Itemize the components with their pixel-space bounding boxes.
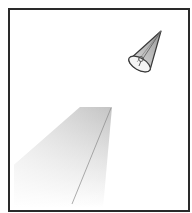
spotlight-cone-icon (126, 31, 161, 75)
light-beam (14, 107, 112, 208)
spotlight-scene (0, 0, 192, 213)
